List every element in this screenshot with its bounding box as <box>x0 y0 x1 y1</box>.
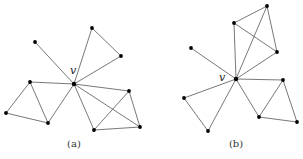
edge <box>208 79 236 131</box>
vertex <box>138 125 142 129</box>
vertex-label-v: v <box>70 64 77 77</box>
edges <box>184 6 297 131</box>
edge <box>191 48 236 79</box>
edge <box>234 6 267 23</box>
edge <box>236 79 283 80</box>
edge <box>259 117 297 122</box>
edge <box>283 80 297 122</box>
edge <box>184 98 208 131</box>
figure-a: v (a) <box>4 26 142 149</box>
edge <box>30 82 74 84</box>
edge <box>129 91 140 127</box>
edges <box>6 28 140 130</box>
edge <box>48 84 74 123</box>
nodes <box>4 26 142 132</box>
vertex <box>281 78 285 82</box>
edge <box>94 127 140 130</box>
edge <box>184 79 236 98</box>
edge <box>236 79 259 117</box>
caption-a: (a) <box>67 138 81 149</box>
diagram-canvas: v (a) v (b) <box>0 0 303 159</box>
vertex <box>265 4 269 8</box>
vertex <box>92 128 96 132</box>
caption-b: (b) <box>229 138 243 149</box>
vertex <box>206 129 210 133</box>
vertex <box>28 80 32 84</box>
edge <box>74 84 129 91</box>
edge <box>259 80 283 117</box>
vertex <box>295 120 299 124</box>
vertex <box>127 89 131 93</box>
vertex <box>257 115 261 119</box>
vertex-v <box>72 82 76 86</box>
vertex-label-v: v <box>219 71 226 84</box>
vertex <box>119 54 123 58</box>
edge <box>92 28 121 56</box>
edge <box>35 42 74 84</box>
edge <box>30 82 48 123</box>
vertex <box>189 46 193 50</box>
edge <box>6 113 48 123</box>
vertex <box>275 50 279 54</box>
edge <box>267 6 277 52</box>
vertex <box>4 111 8 115</box>
vertex-v <box>234 77 238 81</box>
edge <box>234 23 236 79</box>
edge <box>94 91 129 130</box>
vertex <box>33 40 37 44</box>
vertex <box>182 96 186 100</box>
edge <box>6 82 30 113</box>
edge <box>234 23 277 52</box>
edge <box>74 28 92 84</box>
vertex <box>90 26 94 30</box>
edge <box>74 56 121 84</box>
figure-b: v (b) <box>182 4 299 149</box>
vertex <box>232 21 236 25</box>
vertex <box>46 121 50 125</box>
